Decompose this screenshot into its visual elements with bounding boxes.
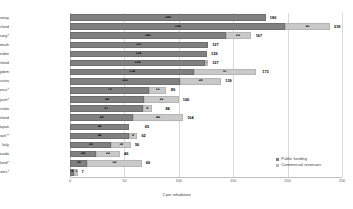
category-label: Finland xyxy=(0,61,9,65)
category-label: Switzerland xyxy=(0,25,9,29)
commercial-revenues-swatch-icon xyxy=(276,164,279,167)
category-label: France* xyxy=(0,88,9,92)
x-tick-label-50: 50 xyxy=(122,179,126,183)
category-label: Italy xyxy=(2,143,9,147)
stacked-bar-chart: 1801801984123914323167127127126126124312… xyxy=(0,0,353,209)
legend-item-commercial-revenues: Commercial revenues xyxy=(276,162,321,168)
category-label: United Kingdom xyxy=(0,70,9,74)
category-label: Japan xyxy=(0,125,9,129)
x-tick-label-100: 100 xyxy=(176,179,183,183)
x-axis-tick-labels: 050100150200250 xyxy=(70,179,342,187)
x-axis-line xyxy=(70,177,342,178)
category-label: Germany* xyxy=(0,34,9,38)
public-funding-swatch-icon xyxy=(276,158,279,161)
x-axis-title: € per inhabitant xyxy=(0,193,353,197)
x-tick-label-150: 150 xyxy=(230,179,237,183)
category-label: Denmark xyxy=(0,43,9,47)
x-tick-label-0: 0 xyxy=(69,179,71,183)
category-label: Norway xyxy=(0,16,9,20)
category-label: Austria xyxy=(0,79,9,83)
x-tick-label-250: 250 xyxy=(339,179,346,183)
category-label: Ireland xyxy=(0,116,9,120)
category-label: Australia xyxy=(0,107,9,111)
category-label: Sweden xyxy=(0,52,9,56)
chart-legend: Public funding Commercial revenues xyxy=(276,156,321,169)
category-label: Belgium* xyxy=(0,98,9,102)
x-tick-label-200: 200 xyxy=(284,179,291,183)
category-axis-labels: NorwaySwitzerlandGermany*DenmarkSwedenFi… xyxy=(0,13,353,177)
category-label: New Zealand* xyxy=(0,161,9,165)
category-label: Spain** xyxy=(0,134,9,138)
category-label: United States* xyxy=(0,170,9,174)
legend-label-commercial-revenues: Commercial revenues xyxy=(281,162,321,168)
category-label: Canada xyxy=(0,152,9,156)
